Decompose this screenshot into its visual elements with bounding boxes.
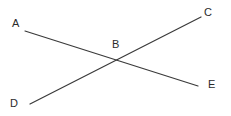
point-label-d: D <box>10 98 18 109</box>
line-segment-dc <box>30 17 201 104</box>
geometry-figure: A B C D E <box>0 0 231 116</box>
point-label-a: A <box>12 18 20 29</box>
point-label-b: B <box>112 39 120 50</box>
point-label-e: E <box>208 79 216 90</box>
figure-svg <box>0 0 231 116</box>
point-label-c: C <box>204 7 212 18</box>
